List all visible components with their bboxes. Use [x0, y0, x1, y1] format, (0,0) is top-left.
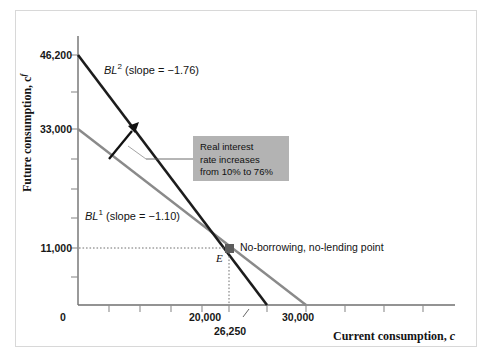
- y-axis-title-superscript: f: [19, 74, 28, 77]
- bl2-superscript: 2: [117, 62, 121, 71]
- x-axis-title: Current consumption, c: [333, 329, 455, 344]
- callout-line-1: Real interest: [200, 141, 289, 154]
- x-axis-ticks: [109, 305, 423, 312]
- bl2-curve-label: BL2 (slope = −1.76): [104, 62, 199, 76]
- bl2-slope-text: (slope = −1.76): [125, 64, 199, 76]
- callout-leader-line-2: [128, 146, 146, 159]
- no-borrowing-no-lending-label: No-borrowing, no-lending point: [240, 241, 384, 253]
- callout-line-3: from 10% to 76%: [200, 166, 289, 179]
- y-axis-title: Future consumption, cf: [19, 48, 35, 218]
- x-tick-label-30000: 30,000: [282, 311, 314, 323]
- x-tick-label-26250: 26,250: [214, 325, 246, 337]
- bl1-superscript: 1: [98, 208, 102, 217]
- bl1-slope-text: (slope = −1.10): [106, 210, 180, 222]
- bl1-name: BL: [85, 210, 98, 222]
- x-tick-label-20000: 20,000: [189, 311, 221, 323]
- equilibrium-point-marker: [225, 244, 234, 253]
- y-axis-title-text: Future consumption, c: [20, 77, 34, 192]
- y-tick-label-11000: 11,000: [26, 242, 72, 254]
- bl2-name: BL: [104, 64, 117, 76]
- equilibrium-point-label: E: [216, 252, 223, 264]
- figure-container: 46,200 33,000 11,000 0 20,000 26,250 30,…: [0, 0, 494, 360]
- x-tick-label-0: 0: [60, 311, 66, 323]
- shift-arrow: [109, 122, 139, 159]
- y-axis-ticks: [71, 55, 78, 277]
- callout-box: Real interest rate increases from 10% to…: [193, 136, 289, 181]
- bl1-curve-label: BL1 (slope = −1.10): [85, 208, 180, 222]
- callout-line-2: rate increases: [200, 154, 289, 167]
- x-label-leader-26250: [243, 309, 249, 317]
